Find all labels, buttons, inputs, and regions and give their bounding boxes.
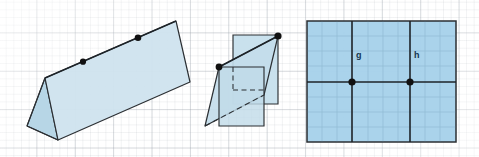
fig3-point-h [406, 78, 413, 85]
fig3-label-g: g [356, 50, 362, 60]
figure-canvas: g h [0, 0, 479, 157]
figure-3-plane-with-lines: g h [0, 0, 479, 157]
fig3-point-g [348, 78, 355, 85]
fig3-label-h: h [414, 50, 420, 60]
